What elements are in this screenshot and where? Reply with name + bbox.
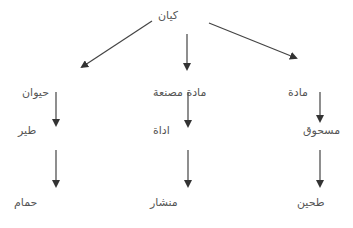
node-right-2: مسحوق — [303, 124, 340, 138]
node-left-2: طير — [18, 124, 36, 138]
node-center-1: مادة مصنعة — [153, 86, 206, 100]
node-center-3: منشار — [150, 196, 178, 210]
arrow-root-to-right — [209, 23, 296, 58]
arrows-layer — [0, 0, 353, 228]
node-right-3: طحين — [297, 196, 325, 210]
node-right-1: مادة — [288, 86, 308, 100]
node-root: كيان — [158, 9, 178, 23]
node-center-2: اداة — [153, 124, 170, 138]
node-left-1: حيوان — [22, 86, 49, 100]
node-left-3: حمام — [14, 196, 37, 210]
arrow-root-to-left — [82, 21, 152, 67]
